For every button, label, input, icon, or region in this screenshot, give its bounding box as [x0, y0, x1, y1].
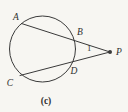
angle-label-1: 1: [87, 43, 91, 53]
point-label-b: B: [77, 27, 83, 37]
point-p-dot: [108, 50, 112, 54]
circle: [10, 16, 76, 82]
geometry-figure: A B C D P 1 (c): [0, 0, 128, 112]
point-label-c: C: [7, 78, 14, 88]
point-label-a: A: [12, 12, 19, 22]
secant-line-pdc: [20, 52, 110, 76]
point-label-d: D: [70, 66, 78, 76]
geometry-diagram: A B C D P 1 (c): [0, 0, 128, 112]
figure-caption: (c): [41, 96, 52, 107]
point-label-p: P: [115, 47, 122, 57]
secant-line-pba: [22, 24, 111, 53]
